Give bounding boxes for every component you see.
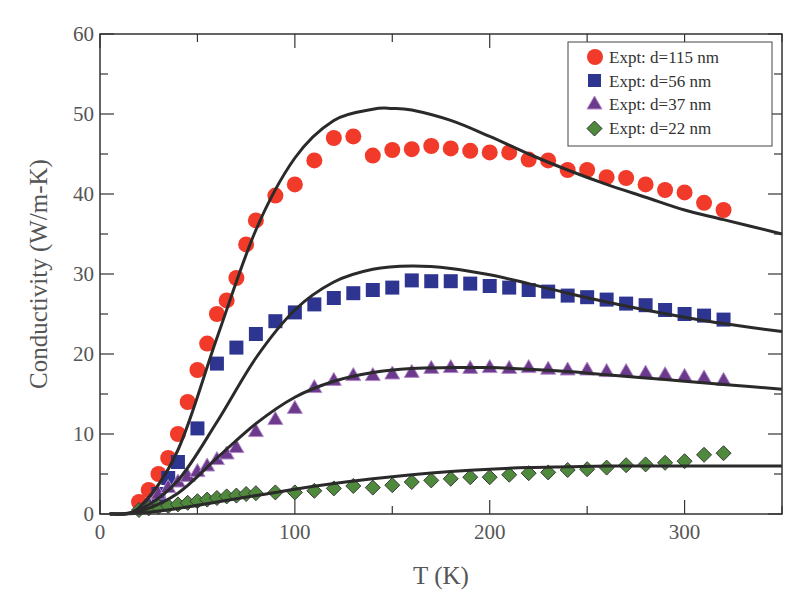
data-point xyxy=(288,305,302,319)
data-point xyxy=(190,421,204,435)
y-tick-label: 20 xyxy=(73,342,94,366)
data-point xyxy=(560,463,575,478)
data-point xyxy=(618,170,634,186)
data-point xyxy=(716,202,732,218)
data-point xyxy=(404,364,419,377)
data-point xyxy=(385,281,399,295)
data-point xyxy=(677,184,693,200)
data-point xyxy=(443,471,458,486)
data-point xyxy=(248,486,263,501)
legend-label: Expt: d=115 nm xyxy=(609,48,719,67)
data-point xyxy=(482,470,497,485)
circle-marker-icon xyxy=(587,49,603,65)
data-point xyxy=(306,152,322,168)
data-point xyxy=(482,144,498,160)
data-point xyxy=(541,361,556,374)
data-point xyxy=(638,457,653,472)
x-tick-label: 0 xyxy=(95,520,106,544)
data-point xyxy=(483,279,497,293)
fit-curve xyxy=(110,466,782,514)
data-point xyxy=(366,283,380,297)
data-point xyxy=(657,182,673,198)
x-tick-label: 300 xyxy=(669,520,701,544)
data-point xyxy=(599,460,614,475)
data-point xyxy=(658,455,673,470)
data-point xyxy=(696,195,712,211)
data-point xyxy=(697,447,712,462)
y-axis-title: Conductivity (W/m-K) xyxy=(25,159,53,389)
data-point xyxy=(404,141,420,157)
y-tick-label: 60 xyxy=(73,22,94,46)
data-point xyxy=(424,473,439,488)
legend: Expt: d=115 nm Expt: d=56 nm Expt: d=37 … xyxy=(568,42,772,146)
data-point xyxy=(287,176,303,192)
data-point xyxy=(365,148,381,164)
square-marker-icon xyxy=(588,74,601,87)
data-point xyxy=(385,478,400,493)
series-triangle xyxy=(141,360,731,509)
y-tick-label: 30 xyxy=(73,262,94,286)
data-point xyxy=(502,281,516,295)
data-point xyxy=(424,274,438,288)
data-point xyxy=(423,138,439,154)
data-point xyxy=(443,140,459,156)
data-point xyxy=(248,424,263,437)
data-point xyxy=(716,446,731,461)
data-point xyxy=(249,327,263,341)
data-point xyxy=(210,357,224,371)
x-axis-title: T (K) xyxy=(413,562,469,590)
data-point xyxy=(405,273,419,287)
data-point xyxy=(638,176,654,192)
x-tick-label: 200 xyxy=(474,520,506,544)
data-point xyxy=(444,274,458,288)
conductivity-chart: 01002003000102030405060 T (K) Conductivi… xyxy=(0,0,796,611)
data-point xyxy=(287,400,302,413)
legend-label: Expt: d=37 nm xyxy=(609,95,711,114)
legend-label: Expt: d=22 nm xyxy=(609,119,711,138)
data-point xyxy=(580,462,595,477)
y-tick-label: 50 xyxy=(73,102,94,126)
data-point xyxy=(384,142,400,158)
y-tick-label: 10 xyxy=(73,422,94,446)
data-point xyxy=(462,143,478,159)
data-point xyxy=(229,341,243,355)
data-point xyxy=(346,286,360,300)
data-point xyxy=(327,291,341,305)
data-point xyxy=(345,128,361,144)
data-point xyxy=(326,130,342,146)
y-tick-label: 40 xyxy=(73,182,94,206)
y-tick-label: 0 xyxy=(84,502,95,526)
data-point xyxy=(463,277,477,291)
fit-curve xyxy=(110,367,782,514)
data-point xyxy=(307,297,321,311)
x-tick-label: 100 xyxy=(279,520,311,544)
legend-label: Expt: d=56 nm xyxy=(609,72,711,91)
data-point xyxy=(365,480,380,495)
